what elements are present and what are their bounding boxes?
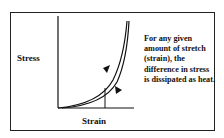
loading-curve: [58, 21, 127, 108]
y-axis-label: Stress: [17, 53, 40, 63]
annotation-text: For any given amount of stretch (strain)…: [144, 34, 216, 85]
x-axis-label: Strain: [82, 116, 106, 126]
arrow-down-icon: [115, 86, 122, 94]
arrow-up-icon: [103, 65, 110, 73]
